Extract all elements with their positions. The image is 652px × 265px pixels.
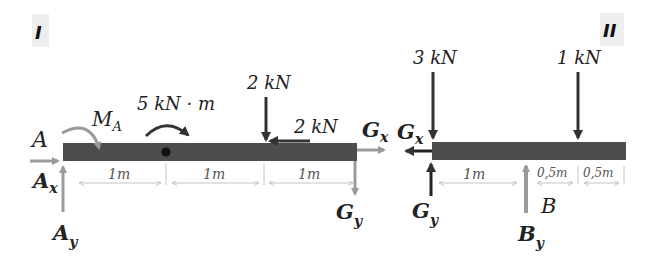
moment-a-label: MA xyxy=(91,107,122,134)
gx-label-ii: Gx xyxy=(397,119,424,147)
gy-label-i: Gy xyxy=(336,199,363,229)
panel-ii: II 3 kN 1 kN Gx Gy B By 1m 0,5m 0,5m xyxy=(397,13,626,251)
dimension-label-i-1: 1m xyxy=(108,166,130,182)
point-b-label: B xyxy=(540,194,556,218)
dimension-label-ii-2: 0,5m xyxy=(537,166,567,180)
dimension-label-ii-1: 1m xyxy=(463,166,485,182)
ax-label: Ax xyxy=(31,168,58,196)
dimension-label-ii-3: 0,5m xyxy=(583,166,613,180)
point-a-label: A xyxy=(30,127,48,152)
applied-moment-label: 5 kN · m xyxy=(137,93,215,114)
dimension-label-i-3: 1m xyxy=(298,166,320,182)
panel-i: I A Ax Ay MA 5 kN · m 2 kN 2 kN Gx Gy xyxy=(30,14,389,250)
force-3kn-label: 3 kN xyxy=(413,47,458,68)
gx-label-i: Gx xyxy=(362,117,389,145)
force-horizontal-label: 2 kN xyxy=(293,116,339,137)
force-down-label: 2 kN xyxy=(246,72,292,93)
ay-label: Ay xyxy=(51,220,78,250)
gy-label-ii: Gy xyxy=(412,198,439,228)
panel-tag-i: I xyxy=(35,22,42,43)
beam-i xyxy=(63,143,357,161)
by-label: By xyxy=(517,221,545,251)
beam-diagram: I A Ax Ay MA 5 kN · m 2 kN 2 kN Gx Gy xyxy=(0,0,652,265)
panel-tag-ii: II xyxy=(603,20,617,41)
hinge-point xyxy=(162,148,171,157)
applied-moment-arc-icon xyxy=(146,126,188,136)
force-1kn-label: 1 kN xyxy=(557,47,602,68)
dimension-label-i-2: 1m xyxy=(203,166,225,182)
beam-ii xyxy=(432,142,626,160)
